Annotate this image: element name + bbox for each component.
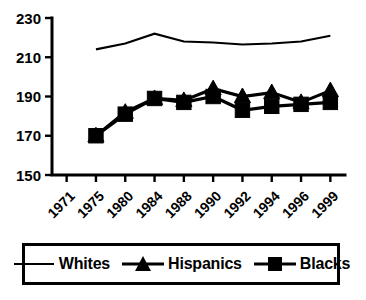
data-point-marker-blacks bbox=[118, 107, 132, 121]
legend-entry-whites: Whites bbox=[12, 255, 110, 273]
data-point-marker-blacks bbox=[235, 103, 249, 117]
data-point-marker-blacks bbox=[294, 97, 308, 111]
y-tick-label: 150 bbox=[16, 167, 41, 184]
data-point-marker-blacks bbox=[147, 91, 161, 105]
chart-legend: Whites Hispanics Blacks bbox=[22, 243, 340, 285]
data-series-layer bbox=[88, 34, 339, 143]
chart-container: 150170190210230 197119751980198419881990… bbox=[0, 0, 366, 300]
x-tick-label: 1980 bbox=[103, 188, 136, 221]
y-tick-label: 230 bbox=[16, 10, 41, 27]
y-tick-label: 170 bbox=[16, 127, 41, 144]
data-point-marker-hispanics bbox=[322, 82, 338, 97]
legend-label-hispanics: Hispanics bbox=[168, 255, 242, 273]
data-point-marker-blacks bbox=[177, 95, 191, 109]
legend-entries: Whites Hispanics Blacks bbox=[25, 246, 337, 282]
y-axis-tick-labels: 150170190210230 bbox=[16, 10, 41, 184]
x-tick-label: 1975 bbox=[74, 188, 107, 221]
x-tick-label: 1994 bbox=[250, 188, 283, 221]
y-tick-label: 190 bbox=[16, 88, 41, 105]
data-point-marker-blacks bbox=[206, 89, 220, 103]
triangle-swatch-icon bbox=[121, 254, 165, 274]
x-tick-label: 1984 bbox=[132, 188, 165, 221]
data-point-marker-blacks bbox=[323, 95, 337, 109]
x-tick-label: 1990 bbox=[191, 188, 224, 221]
legend-entry-hispanics: Hispanics bbox=[121, 254, 242, 274]
x-tick-label: 1999 bbox=[308, 188, 341, 221]
x-axis-tick-labels: 1971197519801984198819901992199419961999 bbox=[44, 188, 341, 221]
y-tick-label: 210 bbox=[16, 49, 41, 66]
line-swatch-icon bbox=[12, 255, 56, 273]
data-point-marker-blacks bbox=[265, 99, 279, 113]
series-markers-blacks bbox=[89, 89, 338, 143]
legend-label-blacks: Blacks bbox=[300, 255, 350, 273]
legend-entry-blacks: Blacks bbox=[253, 254, 350, 274]
square-swatch-icon bbox=[253, 254, 297, 274]
x-tick-label: 1996 bbox=[279, 188, 312, 221]
x-tick-label: 1988 bbox=[162, 188, 195, 221]
legend-label-whites: Whites bbox=[59, 255, 110, 273]
data-point-marker-blacks bbox=[89, 129, 103, 143]
x-tick-label: 1971 bbox=[44, 188, 77, 221]
series-line-whites bbox=[96, 34, 330, 50]
data-point-marker-hispanics bbox=[264, 84, 280, 99]
x-tick-label: 1992 bbox=[220, 188, 253, 221]
